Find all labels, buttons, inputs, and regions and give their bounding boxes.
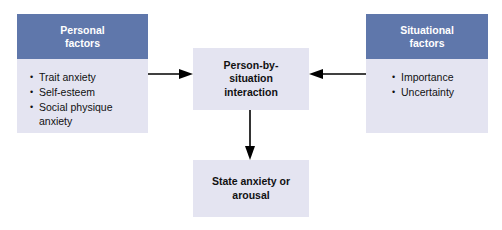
list-item: Trait anxiety <box>30 70 142 84</box>
node-personal-factors-title-line1: Personal <box>60 24 104 37</box>
node-situational-factors-body: Importance Uncertainty <box>366 59 488 133</box>
node-personal-factors-body: Trait anxiety Self-esteem Social physiqu… <box>17 59 148 133</box>
node-situational-factors-header: Situational factors <box>366 14 488 59</box>
node-state-anxiety-or-arousal-label: State anxiety or arousal <box>212 175 290 202</box>
node-personal-factors-title-line2: factors <box>65 37 100 50</box>
list-item: Importance <box>392 70 482 84</box>
node-personal-factors-header: Personal factors <box>17 14 148 59</box>
list-item: Uncertainty <box>392 85 482 99</box>
node-situational-factors: Situational factors Importance Uncertain… <box>366 14 488 133</box>
node-situational-factors-title-line2: factors <box>409 37 444 50</box>
personal-factors-list: Trait anxiety Self-esteem Social physiqu… <box>30 70 142 128</box>
list-item: Social physique anxiety <box>30 100 142 128</box>
diagram-canvas: Personal factors Trait anxiety Self-este… <box>0 0 502 230</box>
situational-factors-list: Importance Uncertainty <box>392 70 482 99</box>
node-situational-factors-title-line1: Situational <box>400 24 454 37</box>
node-state-anxiety-or-arousal: State anxiety or arousal <box>193 160 309 217</box>
node-person-by-situation-interaction-label: Person-by- situation interaction <box>224 59 279 100</box>
arrow-interaction-to-outcome-icon <box>240 110 260 160</box>
list-item: Self-esteem <box>30 85 142 99</box>
arrow-personal-to-interaction-icon <box>148 64 193 84</box>
node-personal-factors: Personal factors Trait anxiety Self-este… <box>17 14 148 133</box>
node-person-by-situation-interaction: Person-by- situation interaction <box>193 48 309 110</box>
arrow-situational-to-interaction-icon <box>309 64 366 84</box>
